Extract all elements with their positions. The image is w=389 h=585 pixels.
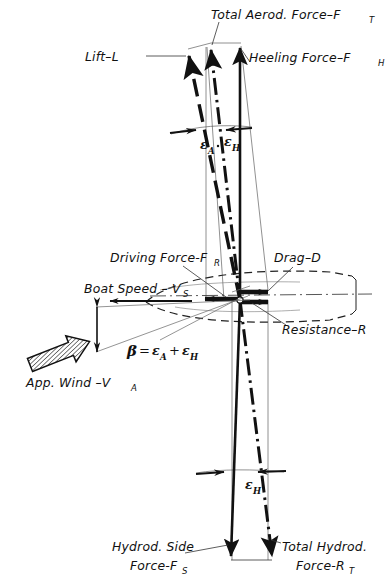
label-beta-term-b: ε: [182, 343, 190, 358]
label-epsilon-a-top: ε A: [200, 137, 219, 156]
label-beta-term-a-sub: A: [159, 352, 167, 362]
label-heeling-force-sub: H: [378, 58, 385, 68]
label-apparent-wind-text: App. Wind –V: [25, 375, 112, 390]
label-total-aerodynamic-force: Total Aerod. Force–F T: [211, 7, 375, 25]
label-total-aerodynamic-force-text: Total Aerod. Force–F: [211, 7, 341, 22]
hull-outline: [146, 271, 352, 322]
label-heeling-force-text: Heeling Force–F: [249, 50, 351, 65]
force-diagram-svg: Total Aerod. Force–F T Lift–L Heeling Fo…: [0, 0, 389, 585]
label-apparent-wind-sub: A: [130, 383, 137, 393]
label-hydrodynamic-side-force-line2: Force-F: [130, 558, 178, 573]
label-driving-force-text: Driving Force-F: [110, 250, 208, 265]
label-apparent-wind: App. Wind –V A: [25, 375, 137, 393]
label-epsilon-h-top: ε H: [224, 134, 241, 153]
label-total-hydrodynamic-force-line2: Force-R: [296, 558, 345, 573]
label-beta-term-a: ε: [152, 343, 160, 358]
vector-apparent-wind-VA: [25, 329, 95, 379]
label-epsilon-h-bottom-symbol: ε: [245, 477, 253, 492]
label-drag-text: Drag–D: [274, 250, 321, 265]
hull-stern: [352, 276, 356, 314]
label-total-hydrodynamic-force-line1: Total Hydrod.: [282, 539, 367, 554]
label-heeling-force: Heeling Force–F H: [249, 50, 385, 68]
label-epsilon-h-top-symbol: ε: [224, 134, 232, 149]
label-boat-speed-sub: S: [183, 289, 189, 299]
label-epsilon-a-top-sub: A: [207, 146, 215, 156]
label-driving-force: Driving Force-F R: [110, 250, 220, 268]
label-resistance: Resistance–R: [282, 322, 367, 337]
label-beta-term-b-sub: H: [189, 352, 199, 362]
vector-total-hydrodynamic-force-RT: [240, 300, 272, 556]
label-hydrodynamic-side-force-line1: Hydrod. Side: [112, 539, 194, 554]
label-drag: Drag–D: [274, 250, 321, 265]
label-resistance-text: Resistance–R: [282, 322, 367, 337]
vector-hydrodynamic-side-force-FS: [231, 300, 240, 556]
label-beta-equation: β = ε A + ε H: [126, 342, 199, 362]
label-lift: Lift–L: [85, 49, 119, 64]
label-epsilon-h-top-sub: H: [231, 143, 241, 153]
label-lift-text: Lift–L: [85, 49, 119, 64]
epsilon-a-dot: [217, 145, 219, 147]
label-hydrodynamic-side-force: Hydrod. Side Force-F S: [112, 539, 194, 576]
label-beta-equals: =: [139, 343, 150, 358]
label-boat-speed: Boat Speed – V S: [84, 281, 189, 299]
epsilon-h-bottom-dot: [262, 485, 264, 487]
label-driving-force-sub: R: [214, 258, 220, 268]
label-beta-plus: +: [169, 343, 180, 358]
label-epsilon-h-bottom-sub: H: [252, 486, 262, 496]
label-hydrodynamic-side-force-sub: S: [182, 566, 188, 576]
label-total-hydrodynamic-force: Total Hydrod. Force-R T: [282, 539, 367, 576]
label-total-aerodynamic-force-sub: T: [369, 15, 375, 25]
label-beta-symbol: β: [126, 342, 137, 360]
label-epsilon-a-top-symbol: ε: [200, 137, 208, 152]
label-total-hydrodynamic-force-sub: T: [349, 566, 355, 576]
force-diagram-canvas: Total Aerod. Force–F T Lift–L Heeling Fo…: [0, 0, 389, 585]
label-boat-speed-text: Boat Speed – V: [84, 281, 182, 296]
